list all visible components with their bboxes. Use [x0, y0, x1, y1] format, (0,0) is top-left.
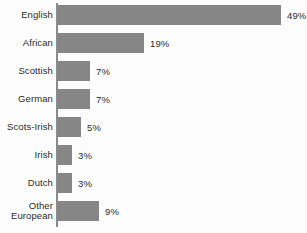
bar-and-value: 9% — [58, 197, 119, 225]
bar-row: Irish3% — [0, 141, 307, 169]
category-label-line1: German — [18, 94, 53, 105]
category-label-line2: European — [11, 211, 53, 222]
bar-row: OtherEuropean9% — [0, 197, 307, 225]
bar-and-value: 3% — [58, 141, 92, 169]
bar-and-value: 19% — [58, 29, 169, 57]
category-label-line1: Scots-Irish — [7, 122, 53, 133]
value-label: 49% — [287, 10, 306, 21]
value-label: 3% — [78, 150, 92, 161]
value-label: 19% — [150, 38, 169, 49]
category-label: OtherEuropean — [0, 197, 53, 225]
category-label-line1: African — [23, 38, 53, 49]
bar-and-value: 3% — [58, 169, 92, 197]
value-label: 5% — [87, 122, 101, 133]
bar-row: English49% — [0, 1, 307, 29]
bar-and-value: 5% — [58, 113, 101, 141]
bar — [58, 5, 281, 25]
bar-rows-container: English49%African19%Scottish7%German7%Sc… — [0, 0, 307, 233]
category-label: German — [0, 85, 53, 113]
bar-chart: English49%African19%Scottish7%German7%Sc… — [0, 0, 307, 233]
bar-and-value: 49% — [58, 1, 306, 29]
category-label-line1: English — [21, 10, 53, 21]
category-label: African — [0, 29, 53, 57]
bar — [58, 117, 81, 137]
category-label: Scottish — [0, 57, 53, 85]
bar — [58, 61, 90, 81]
value-label: 7% — [96, 66, 110, 77]
value-label: 3% — [78, 178, 92, 189]
bar-row: Scots-Irish5% — [0, 113, 307, 141]
bar — [58, 33, 144, 53]
value-label: 7% — [96, 94, 110, 105]
category-label-line1: Scottish — [18, 66, 53, 77]
bar-row: African19% — [0, 29, 307, 57]
value-label: 9% — [105, 206, 119, 217]
bar — [58, 173, 72, 193]
bar-and-value: 7% — [58, 57, 110, 85]
category-label: Scots-Irish — [0, 113, 53, 141]
bar-row: Dutch3% — [0, 169, 307, 197]
category-label: Irish — [0, 141, 53, 169]
bar-and-value: 7% — [58, 85, 110, 113]
category-label: English — [0, 1, 53, 29]
bar-row: German7% — [0, 85, 307, 113]
bar-row: Scottish7% — [0, 57, 307, 85]
category-label: Dutch — [0, 169, 53, 197]
category-label-line1: Irish — [35, 150, 53, 161]
bar — [58, 89, 90, 109]
bar — [58, 201, 99, 221]
category-label-line1: Dutch — [28, 178, 53, 189]
bar — [58, 145, 72, 165]
